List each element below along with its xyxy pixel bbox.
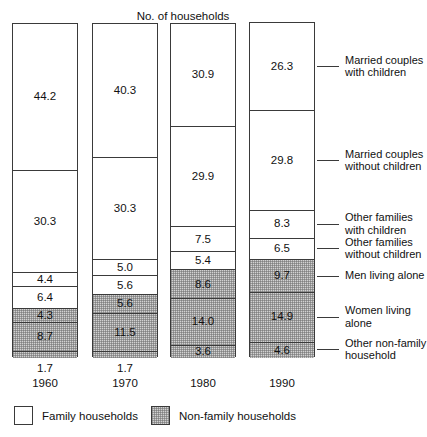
segment-value: 26.3 bbox=[271, 61, 293, 73]
bar-segment: 40.3 bbox=[93, 24, 157, 159]
bar-segment: 14.9 bbox=[250, 293, 314, 343]
segment-value: 8.6 bbox=[195, 279, 211, 291]
bar-segment: 4.6 bbox=[250, 343, 314, 358]
segment-value: 5.0 bbox=[117, 262, 133, 274]
category-label: Women living alone bbox=[345, 304, 411, 329]
bar-segment: 5.6 bbox=[93, 276, 157, 295]
category-label: Married couples without children bbox=[345, 148, 423, 173]
segment-value: 4.6 bbox=[274, 345, 290, 357]
segment-value: 29.8 bbox=[271, 155, 293, 167]
leader-line bbox=[317, 224, 339, 225]
bar-segment: 30.3 bbox=[93, 158, 157, 259]
legend-swatch-family bbox=[14, 406, 33, 425]
bar-segment: 9.7 bbox=[250, 260, 314, 292]
segment-value: 5.6 bbox=[117, 280, 133, 292]
leader-line bbox=[317, 317, 339, 318]
bar-column-1980: 30.929.97.55.48.614.03.6 bbox=[170, 23, 236, 357]
leader-line bbox=[317, 276, 339, 277]
bar-segment: 5.6 bbox=[93, 295, 157, 314]
leader-line bbox=[317, 66, 339, 67]
bar-column-1990: 26.329.88.36.59.714.94.6 bbox=[249, 22, 315, 357]
column-year-1970: 1970 bbox=[80, 377, 170, 389]
segment-value: 8.3 bbox=[274, 218, 290, 230]
segment-value: 11.5 bbox=[114, 327, 136, 339]
column-year-1980: 1980 bbox=[158, 377, 248, 389]
bar-segment: 4.4 bbox=[13, 273, 77, 288]
bar-segment: 14.0 bbox=[171, 299, 235, 346]
segment-value: 30.9 bbox=[192, 69, 214, 81]
segment-value: 5.4 bbox=[195, 255, 211, 267]
column-year-1960: 1960 bbox=[0, 377, 90, 389]
segment-value: 40.3 bbox=[114, 85, 136, 97]
bar-column-1970: 40.330.35.05.65.611.5 bbox=[92, 23, 158, 357]
bar-segment: 5.0 bbox=[93, 260, 157, 277]
category-label: Men living alone bbox=[345, 269, 425, 282]
legend-item-nonfamily: Non-family households bbox=[151, 406, 296, 425]
segment-value-outside: 1.7 bbox=[80, 362, 170, 374]
bar-segment: 8.3 bbox=[250, 211, 314, 239]
stacked-bar-chart: No. of households 53 million63 million81… bbox=[0, 0, 427, 437]
segment-value: 6.5 bbox=[274, 243, 290, 255]
bar-segment: 7.5 bbox=[171, 227, 235, 252]
bar-segment: 30.9 bbox=[171, 24, 235, 127]
bar-segment: 26.3 bbox=[250, 23, 314, 111]
chart-title: No. of households bbox=[113, 10, 253, 22]
segment-value: 7.5 bbox=[195, 234, 211, 246]
category-label: Other families without children bbox=[345, 236, 421, 261]
leader-line bbox=[317, 248, 339, 249]
category-label: Married couples with children bbox=[345, 54, 423, 79]
legend-item-family: Family households bbox=[14, 406, 138, 425]
bar-segment: 6.4 bbox=[13, 287, 77, 308]
bar-segment: 29.8 bbox=[250, 111, 314, 211]
bar-segment: 3.6 bbox=[171, 346, 235, 358]
bar-segment: 30.3 bbox=[13, 171, 77, 272]
bar-segment bbox=[93, 352, 157, 358]
segment-value: 9.7 bbox=[274, 270, 290, 282]
segment-value: 30.3 bbox=[34, 216, 56, 228]
leader-line bbox=[317, 160, 339, 161]
segment-value-outside: 1.7 bbox=[0, 362, 90, 374]
segment-value: 3.6 bbox=[195, 346, 211, 358]
bar-segment: 29.9 bbox=[171, 127, 235, 227]
bar-segment: 8.6 bbox=[171, 270, 235, 299]
segment-value: 29.9 bbox=[192, 171, 214, 183]
bar-segment: 6.5 bbox=[250, 239, 314, 261]
bar-segment: 11.5 bbox=[93, 314, 157, 352]
segment-value: 4.3 bbox=[37, 310, 53, 322]
bar-segment bbox=[13, 352, 77, 358]
legend-label-nonfamily: Non-family households bbox=[179, 410, 296, 422]
segment-value: 14.9 bbox=[271, 311, 293, 323]
bar-column-1960: 44.230.34.46.44.38.7 bbox=[12, 23, 78, 357]
bar-segment: 5.4 bbox=[171, 252, 235, 270]
segment-value: 8.7 bbox=[37, 331, 53, 343]
category-label: Other families with children bbox=[345, 211, 413, 236]
segment-value: 5.6 bbox=[117, 298, 133, 310]
segment-value: 4.4 bbox=[37, 274, 53, 286]
segment-value: 14.0 bbox=[192, 316, 214, 328]
column-year-1990: 1990 bbox=[237, 377, 327, 389]
legend-swatch-nonfamily bbox=[151, 406, 170, 425]
segment-value: 44.2 bbox=[34, 91, 56, 103]
leader-line bbox=[317, 349, 339, 350]
segment-value: 30.3 bbox=[114, 203, 136, 215]
bar-segment: 4.3 bbox=[13, 309, 77, 323]
category-label: Other non-family household bbox=[345, 337, 426, 362]
legend-label-family: Family households bbox=[42, 410, 138, 422]
bar-segment: 44.2 bbox=[13, 24, 77, 172]
segment-value: 6.4 bbox=[37, 292, 53, 304]
bar-segment: 8.7 bbox=[13, 323, 77, 352]
